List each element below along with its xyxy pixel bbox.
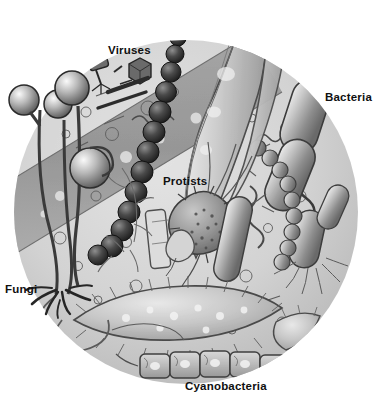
cyanobacteria-filament [116, 351, 308, 378]
illustration-canvas: Viruses Bacteria Protists Fungi Cyanobac… [0, 0, 378, 396]
microbial-world-artwork [0, 0, 378, 396]
label-fungi: Fungi [5, 283, 37, 295]
fungus-sporangium [70, 148, 110, 188]
label-cyanobacteria: Cyanobacteria [185, 380, 267, 392]
label-bacteria: Bacteria [325, 91, 372, 103]
label-viruses: Viruses [108, 44, 151, 56]
fungus-spore-head-3 [55, 71, 89, 105]
fungus-spore-head-1 [9, 85, 39, 115]
label-protists: Protists [163, 175, 207, 187]
